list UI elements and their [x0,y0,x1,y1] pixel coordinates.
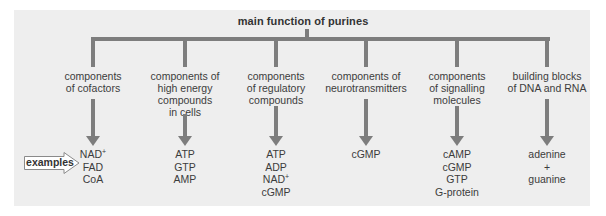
examples-list-dna-rna: adenine + guanine [507,148,587,186]
example-item: ATP [236,148,316,161]
arrow-shaft-signalling [455,106,459,137]
branch-line-regulatory [274,37,278,67]
example-item: cAMP [417,148,497,161]
example-item: NAD+ [236,173,316,186]
diagram-title: main function of purines [0,15,606,27]
examples-label: examples [26,156,74,168]
arrow-shaft-dna-rna [545,99,549,137]
examples-list-high-energy: ATP GTP AMP [145,148,225,186]
arrow-down-icon [86,136,100,146]
branch-line-neurotransmitters [364,37,368,67]
example-item: guanine [507,173,587,186]
example-item: cGMP [417,161,497,174]
example-item: cGMP [326,148,406,161]
function-label-dna-rna: building blocks of DNA and RNA [502,70,592,94]
example-item: adenine [507,148,587,161]
example-item: G-protein [417,186,497,199]
examples-list-neurotransmitters: cGMP [326,148,406,161]
horizontal-bus-line [91,37,550,41]
example-item: + [507,161,587,174]
branch-line-high-energy [183,37,187,67]
arrow-shaft-cofactors [91,99,95,137]
branch-line-cofactors [91,37,95,67]
arrow-down-icon [540,136,554,146]
branch-line-signalling [455,37,459,67]
example-item: cGMP [236,186,316,199]
arrow-shaft-regulatory [274,106,278,137]
arrow-shaft-high-energy [183,114,187,137]
example-item: GTP [417,173,497,186]
example-item: ADP [236,161,316,174]
arrow-down-icon [178,136,192,146]
example-item: GTP [145,161,225,174]
arrow-down-icon [450,136,464,146]
arrow-down-icon [269,136,283,146]
function-label-high-energy: components of high energy compounds in c… [140,70,230,118]
examples-list-signalling: cAMP cGMP GTP G-protein [417,148,497,198]
function-label-signalling: components of signalling molecules [412,70,502,106]
arrow-down-icon [359,136,373,146]
example-item: AMP [145,173,225,186]
examples-list-regulatory: ATP ADP NAD+ cGMP [236,148,316,198]
example-item: CoA [53,173,133,186]
function-label-neurotransmitters: components of neurotransmitters [321,70,411,94]
example-item: ATP [145,148,225,161]
branch-line-dna-rna [545,37,549,67]
function-label-regulatory: components of regulatory compounds [231,70,321,106]
function-label-cofactors: components of cofactors [48,70,138,94]
arrow-shaft-neurotransmitters [364,99,368,137]
